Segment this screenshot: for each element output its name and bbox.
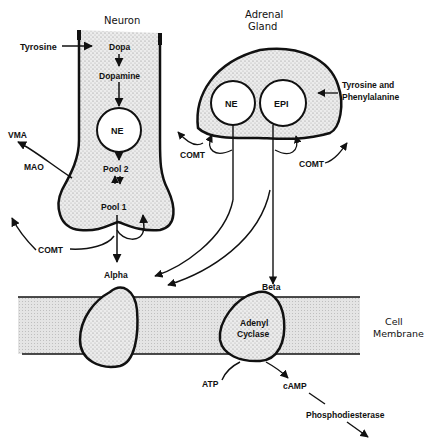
neuron-ne-label: NE [111, 126, 124, 136]
adrenal-title-line1: Adrenal [245, 9, 283, 20]
pool1-label: Pool 1 [101, 202, 127, 212]
phosphodiesterase-label: Phosphodiesterase [306, 410, 385, 420]
diagram-canvas: Neuron Tyrosine Dopa Dopamine NE Pool 2 … [0, 0, 431, 443]
beta-label: Beta [262, 282, 281, 292]
mao-label: MAO [24, 162, 44, 172]
adrenal-epi-label: EPI [274, 99, 289, 109]
tyrosine-label: Tyrosine [20, 42, 57, 52]
comt-neuron-line [70, 236, 114, 249]
atp-label: ATP [202, 379, 219, 389]
adrenal-comt-left-arrow [178, 132, 203, 145]
adrenal-ne-label: NE [225, 99, 238, 109]
neuron-title: Neuron [104, 15, 140, 26]
adrenal-title-line2: Gland [248, 21, 277, 32]
membrane-band [18, 297, 360, 354]
second-messenger: ATP cAMP Phosphodiesterase [202, 362, 385, 437]
adrenal-epi-to-alpha-arrow [168, 190, 270, 285]
adrenal-gland: Adrenal Gland NE EPI Tyrosine and Phenyl… [155, 9, 399, 292]
alpha-label: Alpha [104, 270, 128, 280]
vma-label: VMA [8, 130, 27, 140]
cell-membrane: Adenyl Cyclase Cell Membrane [18, 288, 424, 367]
adrenal-comt-right-label: COMT [299, 159, 325, 169]
adrenal-input-line2: Phenylalanine [342, 92, 399, 102]
cyclase-label: Cyclase [237, 329, 269, 339]
mao-to-vma-arrow [18, 142, 72, 178]
adenyl-label: Adenyl [240, 318, 268, 328]
atp-line [222, 362, 240, 380]
comt-neuron-label: COMT [38, 245, 64, 255]
adrenal-comt-right-arrow [325, 143, 347, 163]
membrane-label-line2: Membrane [373, 328, 424, 339]
neuron: Neuron Tyrosine Dopa Dopamine NE Pool 2 … [8, 15, 173, 280]
camp-line [309, 393, 325, 404]
dopamine-label: Dopamine [99, 71, 140, 81]
adrenal-input-line1: Tyrosine and [342, 80, 394, 90]
pool2-label: Pool 2 [103, 164, 129, 174]
phosphodiesterase-arrow [347, 422, 368, 437]
comt-neuron-arrow [12, 218, 36, 250]
atp-to-camp-arrow [266, 362, 288, 378]
dopa-label: Dopa [109, 42, 131, 52]
membrane-label-line1: Cell [385, 316, 403, 327]
camp-label: cAMP [283, 381, 307, 391]
adrenal-comt-left-label: COMT [180, 150, 206, 160]
